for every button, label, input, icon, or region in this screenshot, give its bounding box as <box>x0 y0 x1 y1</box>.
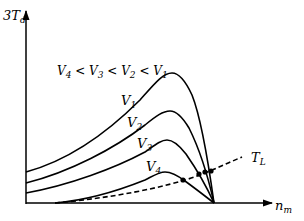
operating-point-v1 <box>208 168 213 173</box>
x-axis-label: nm <box>275 199 292 215</box>
curve-v3 <box>26 140 214 203</box>
operating-point-v4 <box>180 177 185 182</box>
curve-v4 <box>55 172 214 203</box>
voltage-relation-label: V4 < V3 < V2 < V1 <box>57 65 168 80</box>
operating-point-v2 <box>202 169 207 174</box>
load-torque-label: TL <box>251 151 266 167</box>
curve-label-v3: V3 <box>137 137 152 153</box>
curve-label-v2: V2 <box>127 116 142 132</box>
diagram-canvas <box>0 0 304 221</box>
curve-label-v4: V4 <box>146 160 161 176</box>
curve-v1 <box>26 73 214 203</box>
operating-point-v3 <box>196 171 201 176</box>
curve-label-v1: V1 <box>121 94 136 110</box>
torque-speed-diagram: 3Td nm V4 < V3 < V2 < V1 V1 V2 V3 V4 TL <box>0 0 304 221</box>
y-axis-label: 3Td <box>3 9 26 25</box>
